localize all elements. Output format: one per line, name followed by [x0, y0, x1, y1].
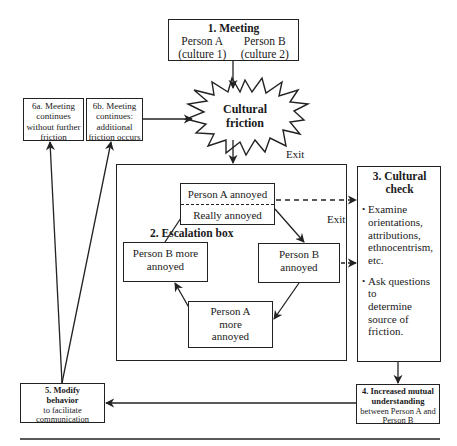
person-b-annoyed-box: Person B annoyed — [258, 243, 340, 283]
modify-behavior-box: 5. Modify behavior to facilitate communi… — [20, 383, 105, 423]
person-b-more-line-1: Person B more — [124, 247, 207, 260]
mutual-line-4: Person B — [357, 416, 439, 426]
person-b-label: Person B — [244, 35, 286, 48]
meeting-continues-no-friction-box: 6a. Meeting continues without further fr… — [23, 98, 84, 141]
cultural-check-bullet-ask: • Ask questions to determine source of f… — [362, 275, 437, 338]
person-a-more-line-1: Person A — [189, 305, 272, 318]
6a-line-3: without further — [24, 122, 83, 132]
person-b-more-annoyed-box: Person B more annoyed — [123, 242, 208, 282]
person-b-more-line-2: annoyed — [124, 260, 207, 273]
person-a-more-line-2: more — [189, 318, 272, 331]
mutual-understanding-box: 4. Increased mutual understanding betwee… — [356, 384, 440, 424]
cultural-check-box: 3. Cultural check • Examine orientations… — [357, 166, 441, 362]
cultural-check-title-line-1: 3. Cultural — [362, 170, 437, 183]
cultural-friction-label: Cultural friction — [210, 103, 280, 131]
6b-line-4: friction occurs — [87, 132, 142, 142]
bullet-1-line-1: Examine — [368, 203, 433, 216]
meeting-box: 1. Meeting Person A Person B (culture 1)… — [168, 19, 299, 61]
bullet-1-line-4: ethnocentrism, — [368, 241, 433, 254]
escalation-box-title: 2. Escalation box — [150, 227, 233, 239]
bullet-2-line-1: Ask questions to — [368, 275, 437, 300]
cultural-check-bullet-examine: • Examine orientations, attributions, et… — [362, 203, 437, 266]
6a-line-1: 6a. Meeting — [24, 101, 83, 111]
person-a-label: Person A — [181, 35, 223, 48]
really-annoyed-label: Really annoyed — [181, 204, 274, 225]
person-a-more-annoyed-box: Person A more annoyed — [188, 301, 273, 348]
person-b-annoyed-line-1: Person B — [259, 248, 339, 261]
6a-line-4: friction — [24, 132, 83, 142]
person-a-annoyed-label: Person A annoyed — [181, 184, 274, 204]
meeting-title: 1. Meeting — [169, 22, 298, 35]
bullet-1-line-2: orientations, — [368, 216, 433, 229]
arrow-modify-to-6a — [50, 142, 62, 383]
person-b-annoyed-line-2: annoyed — [259, 261, 339, 274]
arrow-modify-to-6b — [62, 142, 111, 383]
6a-line-2: continues — [24, 111, 83, 121]
bullet-1-line-5: etc. — [368, 254, 433, 267]
bullet-2-line-3: source of — [368, 313, 437, 326]
person-a-annoyed-box: Person A annoyed Really annoyed — [180, 183, 275, 225]
friction-line-1: Cultural — [210, 103, 280, 117]
bullet-2-line-2: determine — [368, 300, 437, 313]
meeting-continues-friction-box: 6b. Meeting continues: additional fricti… — [86, 98, 143, 141]
person-a-more-line-3: annoyed — [189, 330, 272, 343]
6b-line-1: 6b. Meeting — [87, 101, 142, 111]
culture-1-label: (culture 1) — [178, 48, 226, 61]
friction-line-2: friction — [210, 117, 280, 131]
modify-line-4: communication — [21, 415, 104, 425]
bullet-1-line-3: attributions, — [368, 229, 433, 242]
6b-line-3: additional — [87, 122, 142, 132]
exit-label-top: Exit — [286, 148, 304, 160]
exit-label-right: Exit — [327, 213, 345, 225]
cultural-check-title: 3. Cultural check — [362, 170, 437, 196]
6b-line-2: continues: — [87, 111, 142, 121]
culture-2-label: (culture 2) — [241, 48, 289, 61]
bullet-2-line-4: friction. — [368, 325, 437, 338]
cultural-check-title-line-2: check — [362, 183, 437, 196]
